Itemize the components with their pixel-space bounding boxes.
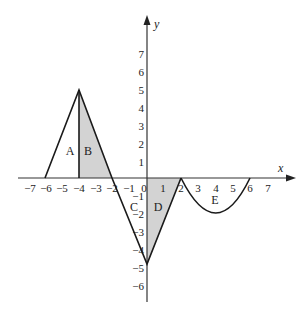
- region-label-a: A: [66, 144, 75, 158]
- x-tick: −5: [56, 182, 68, 194]
- function-graph: x y −7 −6 −5 −4 −3 −2 −1 0 1 2 3 4 5 6 7…: [0, 0, 300, 314]
- region-label-d: D: [154, 200, 163, 214]
- x-tick: 3: [195, 182, 201, 194]
- y-axis-arrow-icon: [144, 15, 151, 25]
- y-tick: 6: [139, 66, 145, 78]
- region-label-e: E: [211, 193, 218, 207]
- x-tick: −7: [24, 182, 36, 194]
- x-axis-arrow-icon: [286, 175, 296, 182]
- x-tick: 6: [247, 182, 253, 194]
- x-tick: −4: [73, 182, 85, 194]
- x-tick: 1: [160, 182, 166, 194]
- x-axis-label: x: [277, 161, 284, 175]
- y-tick: 3: [139, 120, 145, 132]
- y-tick: 2: [139, 138, 145, 150]
- y-tick: 5: [139, 84, 145, 96]
- y-tick: 1: [139, 156, 145, 168]
- y-tick: 7: [139, 48, 145, 60]
- x-tick: 5: [230, 182, 236, 194]
- y-tick: 4: [139, 102, 145, 114]
- y-tick: −5: [132, 262, 144, 274]
- y-tick: −6: [132, 280, 144, 292]
- x-tick: 7: [265, 182, 271, 194]
- region-label-c: C: [130, 200, 138, 214]
- y-axis-label: y: [153, 17, 160, 31]
- x-tick: −6: [40, 182, 52, 194]
- region-label-b: B: [84, 144, 92, 158]
- x-tick: −3: [90, 182, 102, 194]
